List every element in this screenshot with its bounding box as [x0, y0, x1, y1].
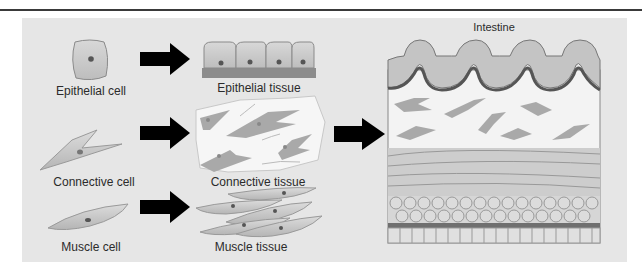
intestine-cross-section — [388, 40, 600, 243]
connective-cell-icon — [40, 130, 122, 170]
epithelial-cell-label: Epithelial cell — [56, 84, 126, 98]
big-arrow-icon — [334, 118, 385, 150]
epithelial-cell-icon — [73, 40, 108, 80]
connective-cell-label: Connective cell — [53, 175, 134, 189]
muscle-cell-label: Muscle cell — [61, 240, 120, 254]
epithelial-tissue-icon — [202, 42, 316, 78]
arrow-icon — [140, 191, 190, 223]
connective-tissue-icon — [196, 96, 325, 172]
arrow-icon — [140, 43, 190, 75]
muscle-tissue-icon — [196, 188, 322, 237]
muscle-cell-icon — [48, 204, 128, 230]
diagram-art — [0, 0, 642, 280]
connective-tissue-label: Connective tissue — [211, 175, 306, 189]
epithelial-tissue-label: Epithelial tissue — [217, 81, 300, 95]
muscle-tissue-label: Muscle tissue — [215, 240, 288, 254]
arrow-icon — [140, 117, 190, 149]
intestine-label: Intestine — [473, 21, 515, 33]
